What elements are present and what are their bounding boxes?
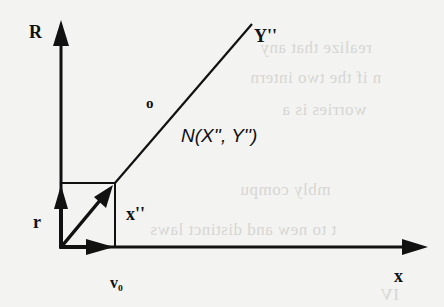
label-vertical-component: r (33, 213, 41, 231)
diagram-canvas: realize that any n if the two intern wor… (0, 0, 444, 307)
horizontal-component-arrowhead (86, 239, 114, 255)
diagonal-line (115, 24, 252, 183)
resultant-vector-shaft (62, 198, 102, 246)
label-vertical-axis: R (29, 23, 42, 41)
vertical-component-arrowhead (54, 185, 68, 209)
label-box-side: x'' (126, 205, 145, 223)
label-line-end: Y'' (254, 27, 277, 45)
diagram-svg (0, 0, 444, 307)
vertical-axis-arrowhead (53, 20, 69, 46)
label-horizontal-component: v₀ (110, 275, 123, 291)
label-point-n: N(X'', Y'') (181, 126, 257, 145)
label-horizontal-axis: x (394, 267, 403, 285)
horizontal-axis-arrowhead (402, 239, 428, 255)
label-line-mark: o (146, 96, 154, 111)
